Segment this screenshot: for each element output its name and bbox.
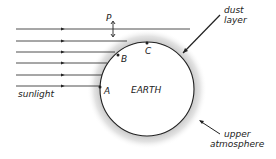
point-a bbox=[99, 86, 102, 89]
label-sunlight: sunlight bbox=[18, 89, 54, 99]
label-layer: layer bbox=[224, 15, 247, 25]
label-upper: upper bbox=[210, 129, 264, 139]
label-earth: EARTH bbox=[131, 85, 161, 95]
label-c: C bbox=[145, 46, 151, 56]
point-b bbox=[117, 54, 120, 57]
label-p: P bbox=[106, 13, 111, 23]
label-atmosphere: atmosphere bbox=[210, 139, 264, 149]
label-upper-atmosphere: upper atmosphere bbox=[210, 129, 264, 149]
point-c bbox=[146, 42, 149, 45]
label-b: B bbox=[121, 54, 127, 64]
label-dust-layer: dust layer bbox=[224, 5, 247, 25]
dust-layer-pointer bbox=[183, 15, 220, 53]
label-dust: dust bbox=[224, 5, 247, 15]
label-a: A bbox=[104, 86, 110, 96]
